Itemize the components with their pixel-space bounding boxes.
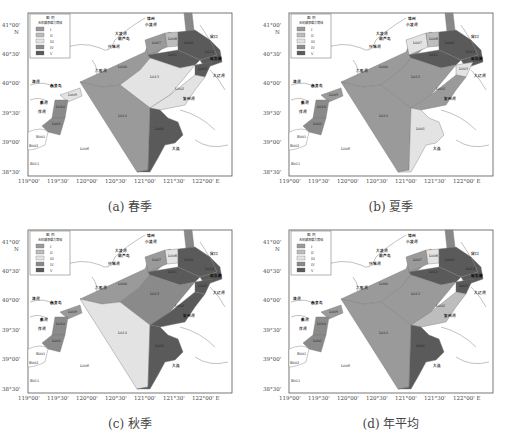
zone-label: L009 — [68, 310, 77, 314]
y-tick-label: 39°00' — [2, 356, 20, 362]
legend-title: 图 例 — [307, 232, 315, 237]
zone-label: L010 — [317, 105, 326, 109]
panel-caption: (d) 年平均 — [261, 414, 521, 431]
x-tick-label: 121°30' — [424, 395, 446, 401]
place-label: 洋河 — [38, 326, 46, 331]
place-label: 六股河 — [356, 68, 368, 73]
place-label: 大凌河 — [115, 248, 127, 253]
x-tick-label: 121°30' — [163, 395, 185, 401]
place-label: 滦河 — [293, 79, 301, 84]
x-tick-label: 122°00' E — [453, 395, 481, 401]
legend-swatch — [297, 33, 305, 37]
place-label: 营口 — [210, 34, 218, 39]
zone-label: L012 — [205, 50, 214, 54]
zone-label: L011 — [168, 53, 177, 57]
x-tick-label: 122°00' E — [192, 178, 220, 184]
zone-label: L001 — [52, 339, 61, 343]
place-label: 复州河 — [443, 313, 456, 318]
place-label: 秦皇岛 — [50, 300, 62, 305]
y-tick-label: 38°30' — [2, 169, 20, 175]
place-label: 营口 — [210, 251, 218, 256]
legend-swatch — [36, 27, 44, 31]
place-label: 戴河 — [301, 100, 309, 105]
zone-label: L000 — [379, 282, 388, 286]
zone-label: L002 — [175, 87, 184, 91]
zone-label: B011 — [30, 162, 39, 166]
legend: 图 例无机磷承载力等级IIIIIIIVV — [30, 14, 70, 58]
y-tick-label: 40°00' — [2, 80, 20, 86]
zone-label: L004 — [184, 41, 194, 45]
y-tick-label: 39°30' — [2, 327, 20, 333]
zone-label: L011 — [429, 270, 438, 274]
north-label: N — [275, 29, 280, 35]
x-tick-label: 119°00' — [279, 395, 301, 401]
x-tick-label: 120°30' — [105, 178, 127, 184]
y-tick-label: 39°30' — [2, 110, 20, 116]
y-tick-label: 41°00' — [263, 239, 281, 245]
zone-label: L008 — [429, 37, 438, 41]
zone-label: L001 — [416, 127, 425, 131]
zone-label: L014 — [118, 331, 128, 335]
zone-label: L006 — [80, 147, 89, 151]
zone-label: L003 — [198, 284, 207, 288]
x-tick-label: 120°00' — [76, 395, 98, 401]
place-label: 复州河 — [182, 96, 195, 101]
place-label: 大凌河 — [115, 31, 127, 36]
legend-swatch — [297, 39, 305, 43]
legend: 图 例无机磷承载力等级IIIIIIIVV — [291, 231, 331, 275]
legend-label: IV — [311, 263, 315, 267]
legend-swatch — [36, 39, 44, 43]
place-label: 小凌河 — [405, 22, 418, 27]
x-tick-label: 121°00' — [134, 178, 156, 184]
zone-label: L000 — [118, 282, 127, 286]
y-tick-label: 39°00' — [263, 139, 281, 145]
legend-swatch — [297, 45, 305, 49]
map-panel-c: L007L008L004L012L011L003L000L013L002L009… — [0, 217, 260, 434]
y-tick-label: 39°30' — [263, 110, 281, 116]
place-label: 洋河 — [299, 326, 307, 331]
zone-label: L013 — [411, 75, 420, 79]
place-label: 大辽河 — [474, 73, 486, 78]
x-tick-label: 119°30' — [308, 395, 330, 401]
zone-label: B002 — [290, 361, 299, 365]
zone-label: L002 — [175, 304, 184, 308]
panel-caption: (a) 春季 — [0, 197, 260, 214]
zone-label: L006 — [341, 147, 350, 151]
legend-label: III — [311, 257, 316, 261]
x-tick-label: 119°00' — [18, 178, 40, 184]
zone-label: L009 — [68, 93, 77, 97]
place-label: 六股河 — [95, 68, 107, 73]
zone-label: L001 — [155, 344, 164, 348]
place-label: 兴城河 — [108, 261, 120, 266]
legend-swatch — [297, 51, 305, 55]
legend-label: IV — [50, 46, 54, 50]
place-label: 滦河 — [293, 296, 301, 301]
place-label: 鲅鱼圈 — [210, 273, 222, 278]
x-tick-label: 121°30' — [163, 178, 185, 184]
north-label: N — [14, 29, 19, 35]
legend-swatch — [36, 33, 44, 37]
legend: 图 例无机磷承载力等级IIIIIIIVV — [30, 231, 70, 275]
place-label: 大辽河 — [474, 290, 486, 295]
place-label: 大辽河 — [213, 73, 225, 78]
zone-label: L003 — [459, 67, 468, 71]
legend-label: III — [50, 40, 55, 44]
zone-label: L007 — [413, 41, 422, 45]
y-tick-label: 39°30' — [263, 327, 281, 333]
y-tick-label: 39°00' — [263, 356, 281, 362]
zone-label: L008 — [168, 254, 177, 258]
x-tick-label: 119°00' — [18, 395, 40, 401]
place-label: 洋河 — [38, 109, 46, 114]
map-panel-b: L007L008L004L012L011L003L000L013L002L009… — [261, 0, 521, 217]
y-tick-label: 38°30' — [263, 169, 281, 175]
place-label: 复州河 — [443, 96, 456, 101]
place-label: 秦皇岛 — [50, 83, 62, 88]
zone-label: L004 — [445, 258, 455, 262]
place-label: 葫芦岛 — [118, 253, 130, 258]
legend-title: 图 例 — [307, 15, 315, 20]
zone-label: L014 — [118, 114, 128, 118]
y-tick-label: 41°00' — [2, 239, 20, 245]
zone-label: B011 — [30, 379, 39, 383]
place-label: 大连 — [172, 363, 180, 368]
place-label: 小凌河 — [144, 239, 157, 244]
